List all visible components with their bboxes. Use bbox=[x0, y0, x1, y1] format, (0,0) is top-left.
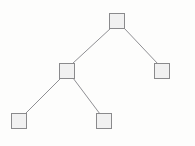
edge-layer bbox=[25, 28, 158, 114]
node-square-internal-l[interactable] bbox=[60, 64, 75, 79]
tree-node-leaf-r[interactable] bbox=[155, 64, 170, 79]
edge-internal-leaf-ll bbox=[25, 78, 61, 114]
node-square-root[interactable] bbox=[110, 14, 125, 29]
node-square-leaf-ll[interactable] bbox=[12, 114, 27, 129]
tree-node-internal-l[interactable] bbox=[60, 64, 75, 79]
tree-diagram-canvas bbox=[0, 0, 195, 146]
node-square-leaf-r[interactable] bbox=[155, 64, 170, 79]
edge-internal-leaf-lr bbox=[73, 78, 100, 114]
tree-node-root[interactable] bbox=[110, 14, 125, 29]
node-square-leaf-lr[interactable] bbox=[97, 114, 112, 129]
tree-node-leaf-ll[interactable] bbox=[12, 114, 27, 129]
edge-root-leaf-r bbox=[124, 28, 158, 64]
node-layer bbox=[12, 14, 170, 129]
tree-diagram bbox=[0, 0, 195, 146]
edge-root-internal-l bbox=[72, 28, 111, 64]
tree-node-leaf-lr[interactable] bbox=[97, 114, 112, 129]
